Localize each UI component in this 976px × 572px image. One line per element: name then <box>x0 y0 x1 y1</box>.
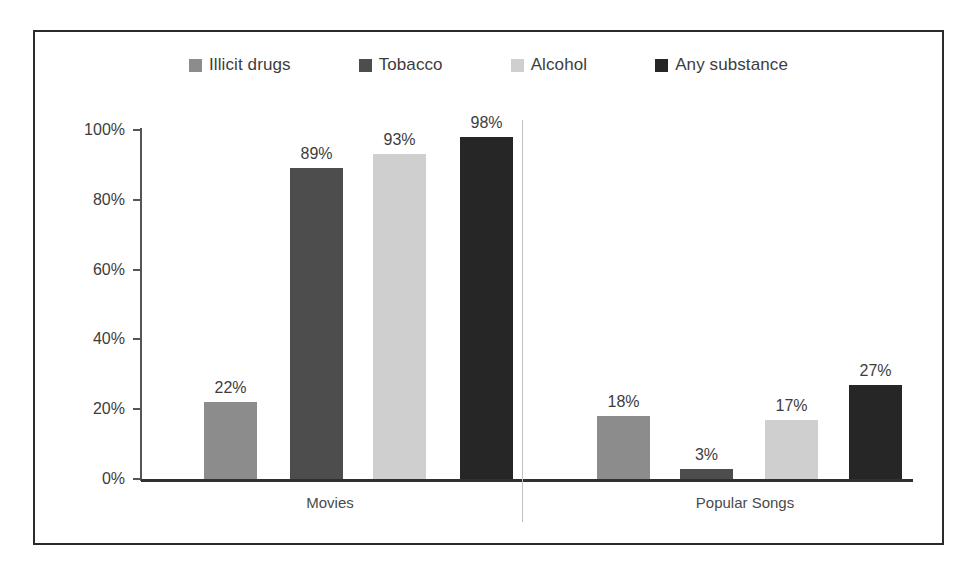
y-tick-mark <box>133 199 141 201</box>
legend-swatch-icon <box>359 59 372 72</box>
bar-value-label: 93% <box>383 131 415 149</box>
bar-value-label: 22% <box>214 379 246 397</box>
y-tick-label: 60% <box>59 261 125 279</box>
legend-item-label: Any substance <box>675 55 788 75</box>
bar[interactable]: 17% <box>765 420 818 479</box>
bar-value-label: 3% <box>695 446 718 464</box>
legend-item[interactable]: Tobacco <box>359 55 443 75</box>
y-tick-label: 20% <box>59 400 125 418</box>
bar[interactable]: 93% <box>373 154 426 479</box>
legend-item-label: Alcohol <box>531 55 587 75</box>
bar[interactable]: 27% <box>849 385 902 479</box>
legend-item-label: Tobacco <box>379 55 443 75</box>
bar[interactable]: 3% <box>680 469 733 479</box>
bar-value-label: 18% <box>607 393 639 411</box>
y-tick-mark <box>133 129 141 131</box>
legend-item[interactable]: Alcohol <box>511 55 587 75</box>
legend-swatch-icon <box>189 59 202 72</box>
category-label: Movies <box>306 494 354 511</box>
y-tick-label: 80% <box>59 191 125 209</box>
category-label: Popular Songs <box>696 494 794 511</box>
y-tick-mark <box>133 478 141 480</box>
y-tick-mark <box>133 408 141 410</box>
y-tick-label: 40% <box>59 330 125 348</box>
y-tick-label: 100% <box>59 121 125 139</box>
chart-legend: Illicit drugsTobaccoAlcoholAny substance <box>35 50 942 80</box>
chart-frame: Illicit drugsTobaccoAlcoholAny substance… <box>33 30 944 545</box>
legend-item[interactable]: Any substance <box>655 55 788 75</box>
legend-item[interactable]: Illicit drugs <box>189 55 291 75</box>
x-axis-line <box>141 479 913 482</box>
legend-item-label: Illicit drugs <box>209 55 291 75</box>
legend-swatch-icon <box>655 59 668 72</box>
y-tick-mark <box>133 269 141 271</box>
plot-area: 22%89%93%98%18%3%17%27% <box>141 130 912 479</box>
bar-value-label: 27% <box>859 362 891 380</box>
y-tick-label: 0% <box>59 470 125 488</box>
bar[interactable]: 98% <box>460 137 513 479</box>
bar[interactable]: 89% <box>290 168 343 479</box>
bar-value-label: 89% <box>300 145 332 163</box>
bar-value-label: 17% <box>775 397 807 415</box>
bar[interactable]: 18% <box>597 416 650 479</box>
bar[interactable]: 22% <box>204 402 257 479</box>
y-axis-ticks <box>35 32 141 543</box>
bar-value-label: 98% <box>470 114 502 132</box>
y-tick-mark <box>133 338 141 340</box>
legend-swatch-icon <box>511 59 524 72</box>
